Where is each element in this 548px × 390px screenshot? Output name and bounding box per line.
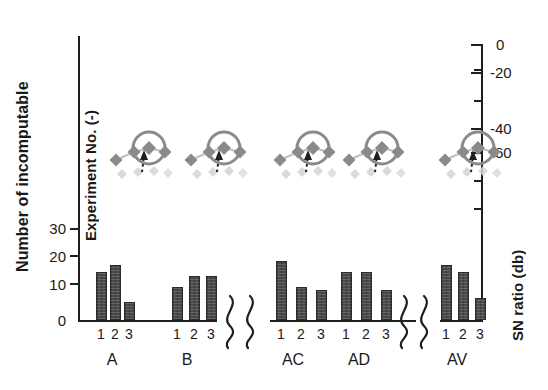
left-tick-20 (70, 255, 79, 257)
axis-break-left (216, 294, 272, 350)
xgroup-label-B: B (167, 352, 207, 368)
left-axis-spine-upper (78, 36, 80, 228)
xgroup-label-A: A (92, 352, 132, 368)
xtick-AC1: 1 (273, 327, 289, 341)
bar-B2 (189, 276, 200, 320)
left-axis-spine-lower (78, 228, 80, 322)
xtick-A3: 3 (121, 327, 137, 341)
left-tick-label-0: 0 (36, 313, 66, 328)
xtick-AD3: 3 (378, 327, 394, 341)
bar-AC3 (316, 290, 327, 320)
xtick-B1: 1 (169, 327, 185, 341)
left-tick-label-20: 20 (36, 249, 66, 264)
right-tick-minor-4 (474, 208, 482, 210)
bar-AV2 (458, 272, 469, 320)
marker-cluster-AD (341, 116, 419, 188)
xtick-AC3: 3 (313, 327, 329, 341)
bar-AD1 (341, 272, 352, 320)
bar-AD2 (361, 272, 372, 320)
bar-A3 (124, 302, 135, 321)
xtick-AV2: 2 (455, 327, 471, 341)
bar-AV3 (475, 298, 486, 320)
left-tick-label-10: 10 (36, 277, 66, 292)
marker-cluster-A (108, 116, 186, 188)
left-tick-label-30: 30 (36, 221, 66, 236)
marker-cluster-AV (437, 116, 515, 188)
right-tick-0 (471, 44, 482, 46)
left-tick-30 (70, 228, 79, 230)
left-inner-axis-title: Experiment No. (-) (82, 36, 99, 241)
xgroup-label-AV: AV (434, 352, 480, 368)
marker-cluster-B (183, 116, 261, 188)
axis-break-right (390, 294, 446, 350)
xgroup-label-AC: AC (270, 352, 316, 368)
bar-A2 (110, 265, 121, 321)
right-tick-minor-2 (474, 100, 482, 102)
xtick-B3: 3 (203, 327, 219, 341)
x-axis-baseline-segment-3 (440, 320, 482, 322)
xtick-AD2: 2 (358, 327, 374, 341)
xtick-AV3: 3 (472, 327, 488, 341)
xtick-AC2: 2 (293, 327, 309, 341)
bar-AV1 (441, 265, 452, 321)
xtick-B2: 2 (186, 327, 202, 341)
xtick-AD1: 1 (338, 327, 354, 341)
bar-B3 (206, 276, 217, 320)
bar-A1 (96, 272, 107, 320)
left-tick-10 (70, 283, 79, 285)
right-tick-20 (471, 72, 482, 74)
marker-cluster-AC (272, 116, 350, 188)
x-axis-baseline-segment-1 (79, 320, 217, 322)
right-tick-minor-1 (474, 69, 482, 71)
right-tick-label-20: -20 (490, 65, 530, 80)
left-outer-axis-title: Number of incomputable (14, 22, 32, 272)
right-tick-label-0: 0 (496, 37, 536, 52)
right-axis-title: SN ratio (db) (509, 196, 526, 341)
bar-AC2 (296, 287, 307, 320)
bar-B1 (172, 287, 183, 320)
xtick-AV1: 1 (438, 327, 454, 341)
bar-AC1 (276, 261, 287, 320)
xgroup-label-AD: AD (336, 352, 382, 368)
bar-AD3 (381, 290, 392, 320)
chart-figure: Number of incomputable Experiment No. (-… (0, 0, 548, 390)
